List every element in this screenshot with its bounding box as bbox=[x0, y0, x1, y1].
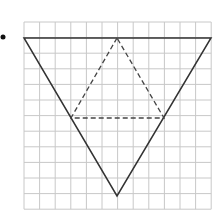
bullet-dot bbox=[1, 35, 6, 40]
grid bbox=[24, 22, 211, 209]
triangle-diagram bbox=[0, 0, 221, 221]
